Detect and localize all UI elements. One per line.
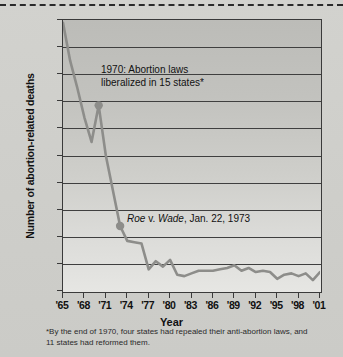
x-tick-label: '80 <box>163 299 176 311</box>
y-tickmark <box>57 46 62 47</box>
annotation-roe-italic-roe: Roe <box>127 213 145 224</box>
annotation-1970-line1: 1970: Abortion laws <box>101 64 204 77</box>
y-tickmark <box>57 263 62 264</box>
y-tickmark <box>57 155 62 156</box>
annotation-1970-line2: liberalized in 15 states* <box>101 77 204 90</box>
x-tick-label: '86 <box>205 299 218 311</box>
y-axis-title: Number of abortion-related deaths <box>24 29 36 284</box>
annotation-roe-suffix: , Jan. 22, 1973 <box>184 213 250 224</box>
x-tickmark <box>319 293 320 298</box>
y-tickmark <box>57 209 62 210</box>
x-tickmark <box>148 293 149 298</box>
x-tickmark <box>83 293 84 298</box>
x-tick-label: '71 <box>98 299 111 311</box>
y-tickmark <box>57 100 62 101</box>
x-tick-label: '65 <box>56 299 69 311</box>
x-tick-label: '01 <box>313 299 326 311</box>
x-tickmark <box>255 293 256 298</box>
annotation-roe-v: v. <box>145 213 158 224</box>
x-tickmark <box>233 293 234 298</box>
footnote: *By the end of 1970, four states had rep… <box>46 326 308 348</box>
x-tick-label: '83 <box>184 299 197 311</box>
x-tick-label: '89 <box>227 299 240 311</box>
annotation-roe-italic-wade: Wade <box>158 213 184 224</box>
y-tickmark <box>57 236 62 237</box>
x-tickmark <box>298 293 299 298</box>
x-tickmark <box>276 293 277 298</box>
x-tickmark <box>169 293 170 298</box>
x-tickmark <box>212 293 213 298</box>
x-tickmark <box>126 293 127 298</box>
y-tickmark <box>57 73 62 74</box>
x-tick-label: '92 <box>248 299 261 311</box>
x-tickmark <box>191 293 192 298</box>
y-tickmark <box>57 127 62 128</box>
x-tickmark <box>62 293 63 298</box>
x-axis-ticks: '65'68'71'74'77'80'83'86'89'92'95'98'01 <box>62 293 322 317</box>
x-tick-label: '98 <box>291 299 304 311</box>
annotation-1970: 1970: Abortion laws liberalized in 15 st… <box>101 64 204 89</box>
x-tickmark <box>105 293 106 298</box>
x-tick-label: '77 <box>141 299 154 311</box>
y-tickmark <box>57 182 62 183</box>
x-tick-label: '74 <box>120 299 133 311</box>
y-tickmark <box>57 290 62 291</box>
annotation-roe-v-wade: Roe v. Wade, Jan. 22, 1973 <box>127 213 250 226</box>
y-tickmark <box>57 19 62 20</box>
chart-figure: Number of abortion-related deaths 200180… <box>0 0 343 357</box>
y-axis-ticks: 200180160140120100806040200 <box>62 19 322 293</box>
x-tick-label: '68 <box>77 299 90 311</box>
x-tick-label: '95 <box>270 299 283 311</box>
